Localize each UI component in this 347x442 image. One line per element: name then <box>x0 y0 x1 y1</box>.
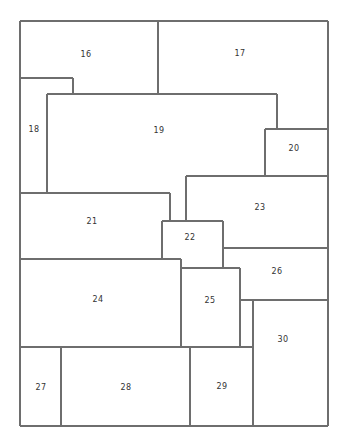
region-27-label: 27 <box>36 383 47 392</box>
region-18-label: 18 <box>29 125 40 134</box>
region-26-label: 26 <box>272 267 283 276</box>
region-24-label: 24 <box>93 295 104 304</box>
region-30-label: 30 <box>278 335 289 344</box>
region-16-label: 16 <box>81 50 92 59</box>
region-21-label: 21 <box>87 217 98 226</box>
partition-diagram <box>0 0 347 442</box>
region-17-label: 17 <box>235 49 246 58</box>
region-19-label: 19 <box>154 126 165 135</box>
region-28-label: 28 <box>121 383 132 392</box>
region-29-label: 29 <box>217 382 228 391</box>
region-23-label: 23 <box>255 203 266 212</box>
region-20-label: 20 <box>289 144 300 153</box>
region-25-label: 25 <box>205 296 216 305</box>
region-22-label: 22 <box>185 233 196 242</box>
